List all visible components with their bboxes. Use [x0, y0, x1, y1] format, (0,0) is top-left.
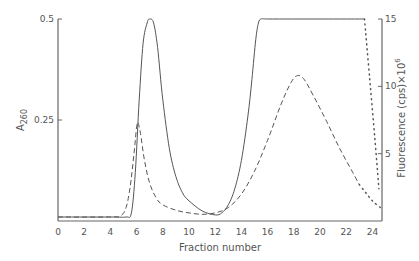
x-tick-label: 24: [367, 227, 379, 237]
x-tick-label: 12: [209, 227, 220, 237]
x-tick-label: 0: [55, 227, 61, 237]
right-y-tick-label: 5: [385, 149, 391, 159]
right-y-axis-label-sup: 6: [394, 58, 402, 63]
right-y-axis-label: Fluorescence (cps)×106: [394, 58, 407, 178]
x-tick-label: 22: [340, 227, 351, 237]
chart-canvas: 0246810121416182022240.250.551015 Fracti…: [0, 0, 419, 261]
x-tick-label: 10: [183, 227, 195, 237]
data-series: [58, 19, 380, 218]
x-tick-label: 2: [81, 227, 87, 237]
left-y-axis-label: A260: [15, 109, 29, 131]
chromatography-chart: 0246810121416182022240.250.551015 Fracti…: [0, 0, 419, 261]
axis-labels: Fraction number A260 Fluorescence (cps)×…: [15, 58, 407, 253]
x-tick-label: 4: [108, 227, 114, 237]
x-tick-label: 18: [288, 227, 300, 237]
x-tick-label: 8: [160, 227, 166, 237]
x-tick-label: 16: [262, 227, 274, 237]
series-line-solid: [58, 19, 365, 218]
left-y-tick-label: 0.5: [40, 14, 54, 24]
x-axis-label: Fraction number: [179, 242, 262, 253]
x-tick-label: 20: [314, 227, 326, 237]
x-tick-label: 6: [134, 227, 140, 237]
series-line-dotted: [365, 19, 379, 189]
series-line-dashed: [58, 75, 359, 217]
right-y-axis-label-main: Fluorescence (cps)×10: [396, 63, 407, 178]
left-y-axis-label-sub: 260: [20, 109, 29, 124]
right-y-tick-label: 15: [385, 14, 396, 24]
axes: 0246810121416182022240.250.551015: [34, 14, 397, 237]
left-y-tick-label: 0.25: [34, 115, 54, 125]
series-line-dotted: [359, 185, 380, 208]
x-tick-label: 14: [236, 227, 248, 237]
right-y-tick-label: 10: [385, 81, 397, 91]
